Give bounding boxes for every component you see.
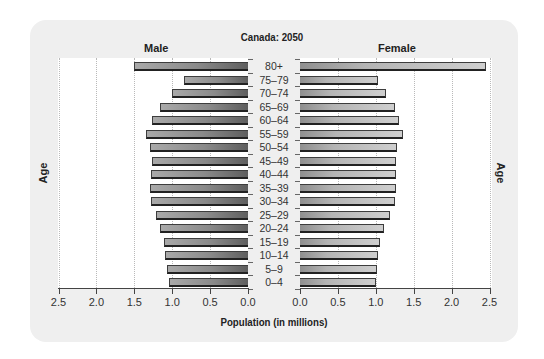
row-bracket-tick [295, 73, 300, 74]
male-bar [169, 278, 248, 287]
row-bracket-tick [295, 208, 300, 209]
row-bracket-tick [295, 194, 300, 195]
male-bar [160, 103, 248, 112]
male-x-tick [210, 288, 211, 294]
age-group-label: 20–24 [248, 222, 300, 235]
row-bracket-tick [248, 140, 253, 141]
age-group-label: 65–69 [248, 101, 300, 114]
row-bracket-tick [248, 262, 253, 263]
male-x-tick-label: 1.5 [119, 296, 149, 308]
male-bar [146, 130, 248, 139]
x-axis-label: Population (in millions) [33, 316, 515, 328]
row-bracket-tick [295, 113, 300, 114]
female-bar [300, 251, 378, 260]
female-x-tick [414, 288, 415, 294]
male-x-tick-label: 0.0 [233, 296, 263, 308]
row-bracket-tick [248, 208, 253, 209]
female-heading: Female [378, 42, 416, 54]
female-x-tick [300, 288, 301, 294]
row-bracket-tick [248, 181, 253, 182]
row-bracket-tick [248, 235, 253, 236]
row-bracket-tick [248, 248, 253, 249]
male-bar [172, 89, 248, 98]
female-bar [300, 211, 390, 220]
row-bracket-tick [248, 86, 253, 87]
male-bar [165, 251, 248, 260]
row-bracket-tick [295, 248, 300, 249]
female-bar [300, 157, 396, 166]
female-bar [300, 170, 396, 179]
male-x-tick-label: 1.0 [157, 296, 187, 308]
female-x-tick-label: 0.5 [323, 296, 353, 308]
chart-title: Canada: 2050 [33, 31, 512, 43]
female-bar [300, 130, 403, 139]
female-x-tick-label: 1.5 [399, 296, 429, 308]
age-group-label: 5–9 [248, 263, 300, 276]
gridline [414, 58, 415, 288]
row-bracket-tick [295, 154, 300, 155]
male-x-tick-label: 2.0 [81, 296, 111, 308]
row-bracket-tick [248, 127, 253, 128]
age-group-label: 60–64 [248, 114, 300, 127]
age-group-label: 45–49 [248, 155, 300, 168]
row-bracket-tick [248, 194, 253, 195]
female-x-tick [490, 288, 491, 294]
female-bar [300, 62, 486, 71]
female-bar [300, 278, 376, 287]
female-bar [300, 89, 386, 98]
male-bar [184, 76, 248, 85]
male-bar [164, 238, 248, 247]
female-x-tick-label: 2.5 [475, 296, 505, 308]
row-bracket-tick [295, 86, 300, 87]
row-bracket-tick [295, 127, 300, 128]
male-x-tick-label: 0.5 [195, 296, 225, 308]
male-bar [150, 184, 248, 193]
age-group-label: 80+ [248, 60, 300, 73]
row-bracket-tick [248, 167, 253, 168]
row-bracket-tick [248, 113, 253, 114]
row-bracket-tick [295, 262, 300, 263]
row-bracket-tick [248, 221, 253, 222]
row-bracket-tick [248, 73, 253, 74]
row-bracket-tick [295, 221, 300, 222]
male-bar [150, 143, 248, 152]
male-x-tick [172, 288, 173, 294]
female-bar [300, 238, 380, 247]
age-group-label: 40–44 [248, 168, 300, 181]
male-x-tick [96, 288, 97, 294]
gridline [134, 58, 135, 288]
age-group-label: 10–14 [248, 249, 300, 262]
male-x-tick [248, 288, 249, 294]
row-bracket-tick [295, 275, 300, 276]
age-group-label: 50–54 [248, 141, 300, 154]
age-group-label: 15–19 [248, 236, 300, 249]
gridline [59, 58, 60, 288]
age-group-label: 70–74 [248, 87, 300, 100]
row-bracket-tick [295, 235, 300, 236]
row-bracket-tick [295, 181, 300, 182]
male-bar [152, 157, 248, 166]
male-x-tick [59, 288, 60, 294]
female-bar [300, 143, 397, 152]
female-x-tick [452, 288, 453, 294]
male-x-tick [134, 288, 135, 294]
gridline [96, 58, 97, 288]
male-bar [167, 265, 248, 274]
y-axis-label-left: Age [37, 158, 49, 188]
age-group-label: 30–34 [248, 195, 300, 208]
female-bar [300, 116, 399, 125]
male-x-tick-label: 2.5 [44, 296, 74, 308]
female-x-tick-label: 1.0 [361, 296, 391, 308]
male-bar [152, 116, 248, 125]
male-bar [134, 62, 248, 71]
female-bar [300, 197, 395, 206]
row-bracket-tick [248, 59, 253, 60]
male-bar [151, 197, 248, 206]
row-bracket-tick [295, 59, 300, 60]
age-group-label: 75–79 [248, 74, 300, 87]
female-bar [300, 103, 395, 112]
row-bracket-tick [248, 154, 253, 155]
female-bar [300, 76, 378, 85]
male-heading: Male [144, 42, 168, 54]
male-x-axis [58, 288, 248, 289]
